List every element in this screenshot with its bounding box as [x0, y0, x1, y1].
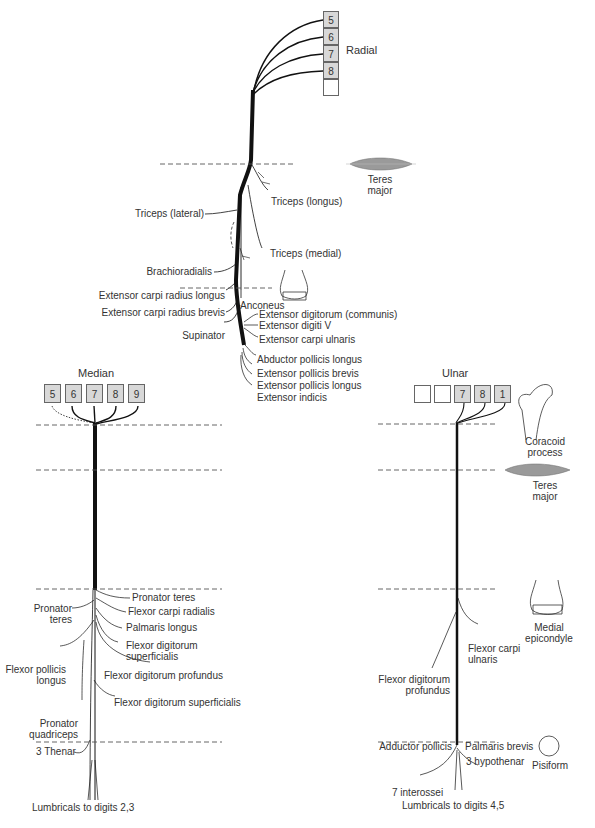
median-root-9: 9 [128, 384, 145, 403]
label-3-thenar: 3 Thenar [36, 746, 76, 757]
label-medial-epicondyle: Medial epicondyle [520, 622, 578, 644]
label-flexor-digitorum-profundus-ulnar: Flexor digitorum profundus [370, 674, 450, 696]
radial-title: Radial [346, 44, 377, 56]
ulnar-nerve [420, 403, 505, 790]
ulnar-root-8: 8 [474, 385, 491, 403]
label-brachioradialis: Brachioradialis [100, 266, 212, 277]
radial-root-empty [323, 79, 339, 96]
label-flexor-digitorum-superficialis-2: Flexor digitorum superficialis [114, 697, 241, 708]
label-flexor-pollicis-longus: Flexor pollicis longus [0, 664, 66, 686]
label-extensor-pollicis-brevis: Extensor pollicis brevis [257, 368, 359, 379]
teres-major-top-illustration [346, 158, 416, 170]
pisiform-illustration [539, 736, 559, 756]
label-pronator-quadriceps: Pronator quadriceps [20, 718, 78, 740]
medial-epicondyle-illustration [530, 580, 563, 615]
label-flexor-digitorum-profundus: Flexor digitorum profundus [104, 670, 223, 681]
label-abductor-pollicis-longus: Abductor pollicis longus [257, 354, 362, 365]
nerve-diagram [0, 0, 595, 828]
radial-root-5: 5 [323, 11, 339, 28]
ulnar-title: Ulnar [442, 367, 468, 379]
level-lines-median [36, 425, 222, 742]
median-root-5: 5 [44, 384, 61, 403]
label-pronator-teres: Pronator teres [132, 592, 195, 603]
label-triceps-medial: Triceps (medial) [270, 248, 341, 259]
label-triceps-longus: Triceps (longus) [271, 196, 342, 207]
label-ecrb: Extensor carpi radius brevis [60, 307, 225, 318]
label-supinator: Supinator [150, 330, 225, 341]
median-root-7: 7 [86, 384, 103, 403]
label-lumbricals-4-5: Lumbricals to digits 4,5 [402, 800, 504, 811]
label-7-interossei: 7 interossei [392, 787, 443, 798]
ulnar-root-empty-2 [434, 385, 451, 403]
label-flexor-carpi-radialis: Flexor carpi radialis [128, 606, 215, 617]
radial-root-6: 6 [323, 28, 339, 45]
coracoid-process-illustration [519, 384, 553, 440]
label-triceps-lateral: Triceps (lateral) [130, 208, 204, 219]
ulnar-root-1: 1 [494, 385, 511, 403]
label-teres-major-top: Teres major [360, 174, 400, 196]
radial-root-8: 8 [323, 62, 339, 79]
label-extensor-digitorum: Extensor digitorum (communis) [259, 309, 397, 320]
label-adductor-pollicis: Adductor pollicis [360, 741, 452, 752]
label-extensor-digiti-v: Extensor digiti V [259, 320, 331, 331]
median-root-6: 6 [65, 384, 82, 403]
label-pisiform: Pisiform [532, 760, 568, 771]
label-ecrl: Extensor carpi radius longus [60, 290, 225, 301]
label-coracoid-process: Coracoid process [520, 436, 570, 458]
label-3-hypothenar: 3 hypothenar [466, 756, 524, 767]
label-extensor-indicis: Extensor indicis [257, 392, 327, 403]
label-flexor-carpi-ulnaris: Flexor carpi ulnaris [468, 643, 520, 665]
teres-major-right-illustration [505, 464, 570, 476]
label-palmaris-longus: Palmaris longus [126, 622, 197, 633]
label-pronator-teres-left: Pronator teres [20, 603, 72, 625]
humerus-epicondyle-illustration [280, 270, 307, 300]
label-extensor-carpi-ulnaris: Extensor carpi ulnaris [259, 334, 355, 345]
label-extensor-pollicis-longus: Extensor pollicis longus [257, 380, 362, 391]
radial-root-7: 7 [323, 45, 339, 62]
label-palmaris-brevis: Palmaris brevis [465, 741, 533, 752]
label-flexor-digitorum-superficialis-1: Flexor digitorum superficialis [126, 640, 198, 662]
median-title: Median [78, 367, 114, 379]
ulnar-root-empty-1 [414, 385, 431, 403]
label-teres-major-right: Teres major [520, 480, 570, 502]
ulnar-root-7: 7 [454, 385, 471, 403]
label-lumbricals-2-3: Lumbricals to digits 2,3 [32, 802, 134, 813]
median-root-8: 8 [107, 384, 124, 403]
